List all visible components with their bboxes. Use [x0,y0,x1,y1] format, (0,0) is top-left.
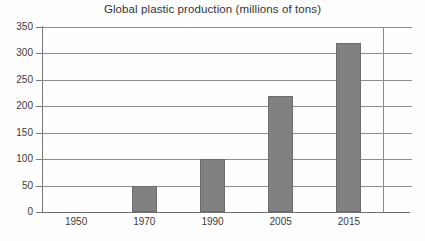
right-frame-line [383,27,384,212]
bar-1990 [200,159,225,212]
chart-title: Global plastic production (millions of t… [0,3,425,15]
y-axis-tick-label: 50 [22,181,33,191]
y-axis-tick-label: 300 [16,48,33,58]
bar-chart-figure: Global plastic production (millions of t… [0,0,425,241]
x-axis-tick-label-2005: 2005 [251,217,311,227]
bar-2015 [336,43,361,212]
bar-2005 [268,96,293,212]
y-axis-tick-label: 350 [16,22,33,32]
y-axis-tick-label: 200 [16,101,33,111]
gridline [42,212,410,213]
x-axis-tick-label-2015: 2015 [319,217,379,227]
y-axis-tick-label: 100 [16,154,33,164]
plot-area [42,27,383,212]
y-axis-tick-label: 250 [16,75,33,85]
x-axis-tick-label-1990: 1990 [183,217,243,227]
x-axis-tick-label-1950: 1950 [46,217,106,227]
x-axis-tick-label-1970: 1970 [114,217,174,227]
y-axis-tick-label: 150 [16,128,33,138]
y-axis-tick-label: 0 [27,207,33,217]
bar-1970 [132,186,157,212]
